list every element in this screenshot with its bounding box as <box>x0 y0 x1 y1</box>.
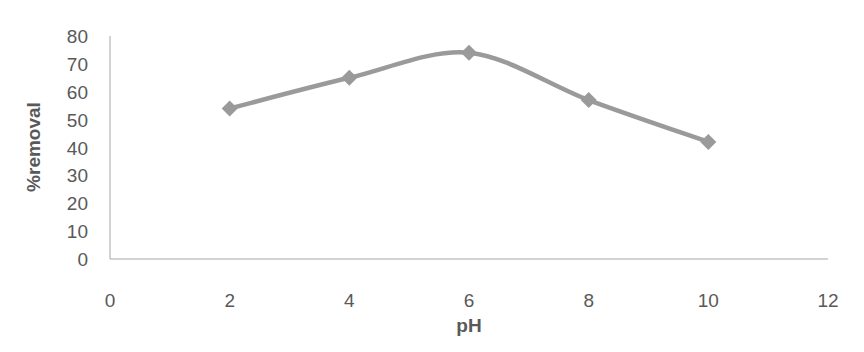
diamond-marker <box>581 92 597 108</box>
y-tick-label: 20 <box>67 193 88 214</box>
x-tick-label: 4 <box>344 290 355 311</box>
plot-area <box>110 36 828 259</box>
y-tick-label: 60 <box>67 82 88 103</box>
x-tick-label: 6 <box>464 290 475 311</box>
x-tick-label: 12 <box>817 290 838 311</box>
y-axis-title: %removal <box>23 102 44 192</box>
diamond-marker <box>222 100 238 116</box>
x-tick-label: 2 <box>224 290 235 311</box>
y-tick-label: 80 <box>67 26 88 47</box>
series-line <box>230 52 709 142</box>
x-tick-label: 10 <box>698 290 719 311</box>
x-axis-tick-labels: 024681012 <box>105 290 839 311</box>
x-axis-title: pH <box>456 315 481 336</box>
y-tick-label: 30 <box>67 165 88 186</box>
x-tick-label: 8 <box>583 290 594 311</box>
y-tick-label: 0 <box>77 249 88 270</box>
diamond-marker <box>461 45 477 61</box>
diamond-marker <box>700 134 716 150</box>
x-tick-label: 0 <box>105 290 116 311</box>
y-tick-label: 40 <box>67 138 88 159</box>
y-axis-tick-labels: 01020304050607080 <box>67 26 88 270</box>
y-tick-label: 50 <box>67 110 88 131</box>
diamond-marker <box>341 70 357 86</box>
line-chart: 01020304050607080 024681012 pH %removal <box>0 0 864 352</box>
y-tick-label: 10 <box>67 221 88 242</box>
y-tick-label: 70 <box>67 54 88 75</box>
